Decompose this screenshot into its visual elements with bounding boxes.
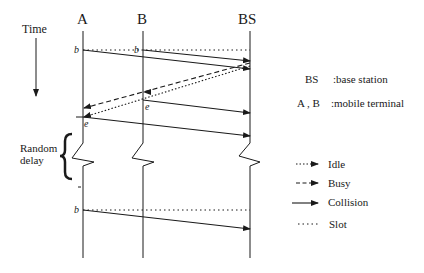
time-label: Time xyxy=(22,22,47,36)
node-a-label: A xyxy=(77,11,88,27)
protocol-timing-diagram: Time A B BS Random delay b b e e b BS :b… xyxy=(0,0,424,273)
end-marker-b: e xyxy=(145,101,150,112)
busy-arrow-bs-a xyxy=(84,63,250,108)
random-delay-label-1: Random xyxy=(20,142,58,154)
legend-slot-label: Slot xyxy=(329,218,347,230)
collision-arrow-b-bs xyxy=(143,50,250,61)
legend-idle-label: Idle xyxy=(328,158,345,170)
begin-marker-a-lower: b xyxy=(74,204,79,215)
end-marker-a: e xyxy=(84,118,89,129)
key-bs-desc: :base station xyxy=(333,73,388,85)
legend-collision-label: Collision xyxy=(328,196,369,208)
collision-arrow-b-bs-2 xyxy=(143,100,250,113)
idle-arrow-bs-a xyxy=(84,66,250,117)
random-delay-label-2: delay xyxy=(20,154,44,166)
timeline-b xyxy=(132,31,154,258)
collision-arrow-a-bs-2 xyxy=(83,117,250,136)
key-bs-abbr: BS xyxy=(305,73,318,85)
collision-arrow-a-bs-3 xyxy=(83,210,250,229)
busy-arrowhead-b-icon xyxy=(143,89,151,95)
begin-marker-b: b xyxy=(134,44,139,55)
begin-marker-a: b xyxy=(74,44,79,55)
node-b-label: B xyxy=(137,11,147,27)
random-delay-brace-icon xyxy=(60,134,72,179)
legend-busy-label: Busy xyxy=(328,177,351,189)
legend: Idle Busy Collision Slot xyxy=(292,158,369,230)
key-ab-desc: :mobile terminal xyxy=(331,97,404,109)
node-bs-label: BS xyxy=(238,11,256,27)
timeline-a xyxy=(72,31,94,258)
key-ab-abbr: A , B xyxy=(297,97,320,109)
